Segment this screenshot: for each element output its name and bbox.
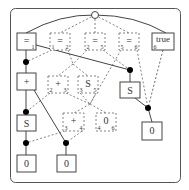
svg-text:=: = <box>92 35 98 46</box>
node-zero46: 0 4 6 <box>96 113 116 131</box>
svg-text:1: 1 <box>52 44 55 50</box>
svg-text:5: 5 <box>121 44 124 50</box>
svg-text:5: 5 <box>94 87 97 93</box>
apex-node-icon <box>92 12 99 19</box>
node-eq25: = 2 5 <box>85 33 105 50</box>
svg-text:6: 6 <box>135 44 138 50</box>
node-s-right: S <box>120 82 140 98</box>
svg-text:=: = <box>126 35 132 46</box>
parse-tree-diagram: = 1 = 1 2 = 2 5 = 5 6 true 6 + + 2 3 <box>0 0 189 190</box>
node-eq1: = 1 <box>17 33 36 50</box>
svg-text:S: S <box>24 118 30 129</box>
svg-text:2: 2 <box>50 87 53 93</box>
node-plus34: + 3 4 <box>63 113 84 131</box>
node-s35: S 3 5 <box>78 76 98 93</box>
node-zero-right: 0 <box>142 122 162 140</box>
svg-text:true: true <box>156 34 170 44</box>
svg-text:+: + <box>55 78 61 89</box>
svg-text:+: + <box>71 115 77 126</box>
svg-text:3: 3 <box>64 87 67 93</box>
svg-text:0: 0 <box>64 158 69 169</box>
svg-text:5: 5 <box>101 44 104 50</box>
svg-text:0: 0 <box>24 158 29 169</box>
svg-text:S: S <box>127 85 133 96</box>
svg-text:=: = <box>24 35 30 46</box>
node-s-left: S <box>17 115 36 131</box>
node-eq12: = 1 2 <box>50 33 70 50</box>
svg-text:=: = <box>57 35 63 46</box>
svg-text:6: 6 <box>154 44 157 50</box>
svg-text:2: 2 <box>87 44 90 50</box>
svg-text:S: S <box>85 78 91 89</box>
svg-text:3: 3 <box>65 125 68 131</box>
node-plus23: + 2 3 <box>48 76 68 93</box>
svg-text:+: + <box>24 76 30 87</box>
svg-text:4: 4 <box>80 125 83 131</box>
svg-text:0: 0 <box>150 125 155 136</box>
svg-text:6: 6 <box>112 125 115 131</box>
svg-text:2: 2 <box>66 44 69 50</box>
node-plus: + <box>17 73 36 90</box>
node-zero-left: 0 <box>17 155 36 172</box>
node-true: true 6 <box>152 33 174 50</box>
svg-text:0: 0 <box>104 115 109 126</box>
svg-text:1: 1 <box>32 44 35 50</box>
node-zero-mid: 0 <box>57 155 76 172</box>
svg-text:3: 3 <box>80 87 83 93</box>
node-eq56: = 5 6 <box>119 33 139 50</box>
svg-text:4: 4 <box>98 125 101 131</box>
junction-dots <box>23 59 151 146</box>
